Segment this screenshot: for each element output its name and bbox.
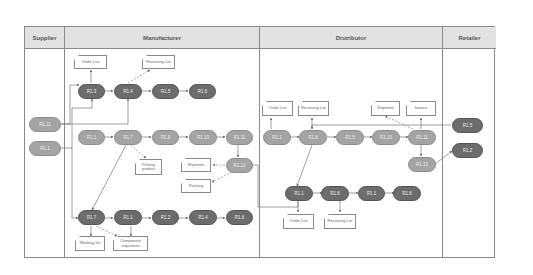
process-node[interactable]: R1.6	[321, 186, 349, 201]
process-node[interactable]: R1.1	[358, 186, 385, 201]
document-shape: Shipment	[371, 101, 400, 116]
lane-header-retailer: Retailer	[443, 27, 496, 49]
document-shape: Component requisition	[113, 236, 148, 251]
process-node[interactable]: R1.2	[152, 210, 179, 225]
process-node[interactable]: R1.6	[226, 210, 253, 225]
document-shape: Order List	[262, 101, 293, 116]
process-node[interactable]: R1.11	[29, 117, 61, 132]
process-node[interactable]: R1.8	[152, 130, 179, 145]
process-node[interactable]: R1.4	[114, 84, 142, 99]
process-node[interactable]: R1.7	[114, 130, 142, 145]
process-node[interactable]: R1.6	[299, 130, 327, 145]
process-node[interactable]: R1.10	[372, 130, 400, 145]
process-node[interactable]: R1.6	[189, 84, 216, 99]
process-node[interactable]: R1.6	[393, 186, 421, 201]
document-shape: Packing	[181, 179, 211, 193]
lane-header-supplier: Supplier	[25, 27, 64, 49]
process-node[interactable]: R1.5	[452, 118, 483, 133]
document-shape: Invoice	[406, 101, 436, 116]
process-node[interactable]: R1.10	[189, 130, 217, 145]
process-node[interactable]: R1.1	[78, 130, 105, 145]
document-shape: Working list	[75, 236, 105, 251]
document-shape: Order List	[74, 55, 107, 69]
document-shape: Order List	[283, 214, 314, 229]
lane-header-manufacturer: Manufacturer	[65, 27, 259, 49]
process-node[interactable]: R1.11	[408, 130, 436, 145]
process-node[interactable]: R1.2	[452, 143, 483, 158]
document-shape: Picking product	[135, 159, 162, 175]
process-node[interactable]: R1.4	[189, 210, 217, 225]
process-node[interactable]: R1.1	[285, 186, 313, 201]
process-node[interactable]: R1.12	[408, 157, 436, 172]
lane-retailer: Retailer	[443, 27, 496, 257]
process-node[interactable]: R1.1	[29, 141, 61, 156]
process-node[interactable]: R1.5	[336, 130, 364, 145]
process-node[interactable]: R1.12	[226, 158, 253, 173]
process-node[interactable]: R1.3	[78, 84, 105, 99]
document-shape: Receiving List	[142, 55, 175, 69]
lane-header-distributor: Distributor	[260, 27, 442, 49]
process-node[interactable]: R1.1	[114, 210, 142, 225]
document-shape: Receiving List	[324, 214, 356, 229]
document-shape: Receiving List	[298, 101, 329, 116]
process-node[interactable]: R1.11	[226, 130, 253, 145]
process-node[interactable]: R1.1	[263, 130, 291, 145]
document-shape: Shipment	[181, 158, 211, 172]
process-node[interactable]: R1.5	[152, 84, 179, 99]
process-node[interactable]: R1.7	[78, 210, 105, 225]
